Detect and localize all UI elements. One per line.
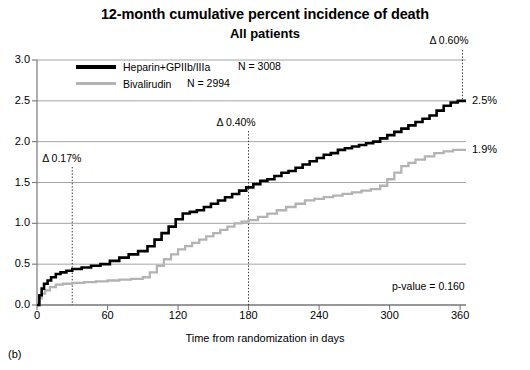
x-tick-label: 180 <box>229 309 269 321</box>
y-tick-label: 1.0 <box>0 216 30 228</box>
x-tick-label: 0 <box>17 309 57 321</box>
legend-swatch-black <box>76 65 116 69</box>
x-tick-label: 120 <box>158 309 198 321</box>
y-tick-label: 2.0 <box>0 135 30 147</box>
panel-identifier: (b) <box>8 348 21 360</box>
end-label-heparin: 2.5% <box>472 94 497 106</box>
x-axis-title: Time from randomization in days <box>0 332 530 344</box>
legend-label-heparin: Heparin+GPIIb/IIIa <box>123 61 210 73</box>
figure-root: 12-month cumulative percent incidence of… <box>0 0 530 370</box>
x-tick-label: 240 <box>299 309 339 321</box>
series-line-heparin-gpiib-iiia <box>37 101 466 305</box>
delta-annotation-day30: Δ 0.17% <box>42 152 81 164</box>
p-value-label: p-value = 0.160 <box>392 280 465 292</box>
legend-entry-heparin: Heparin+GPIIb/IIIa <box>76 58 210 75</box>
x-tick-label: 60 <box>88 309 128 321</box>
y-tick-label: 2.5 <box>0 94 30 106</box>
x-tick-label: 360 <box>440 309 480 321</box>
y-tick-label: 1.5 <box>0 176 30 188</box>
y-tick-label: 0.5 <box>0 257 30 269</box>
delta-annotation-day180: Δ 0.40% <box>217 116 256 128</box>
legend-label-bivalirudin: Bivalirudin <box>123 78 171 90</box>
legend-n-bivalirudin: N = 2994 <box>187 77 230 89</box>
legend-n-heparin: N = 3008 <box>238 60 281 72</box>
y-tick-label: 3.0 <box>0 53 30 65</box>
delta-annotation-day360: Δ 0.60% <box>429 34 468 46</box>
legend-swatch-gray <box>76 82 116 85</box>
x-tick-label: 300 <box>370 309 410 321</box>
end-label-bivalirudin: 1.9% <box>472 143 497 155</box>
